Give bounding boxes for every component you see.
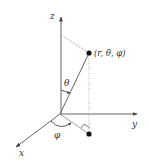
y-axis-label: y xyxy=(131,119,138,129)
z-axis-label: z xyxy=(49,11,55,21)
theta-label: θ xyxy=(64,78,70,88)
point-dot xyxy=(86,50,91,55)
phi-label: φ xyxy=(54,130,61,140)
projection-dot xyxy=(86,131,91,136)
x-axis-label: x xyxy=(19,148,24,158)
point-label: (r, θ, φ) xyxy=(94,48,126,58)
spherical-coordinates-diagram: z y x (r, θ, φ) θ φ xyxy=(0,0,149,166)
z-projection-dashed-line xyxy=(61,35,89,53)
phi-arc xyxy=(51,121,71,127)
theta-arc xyxy=(61,90,70,93)
